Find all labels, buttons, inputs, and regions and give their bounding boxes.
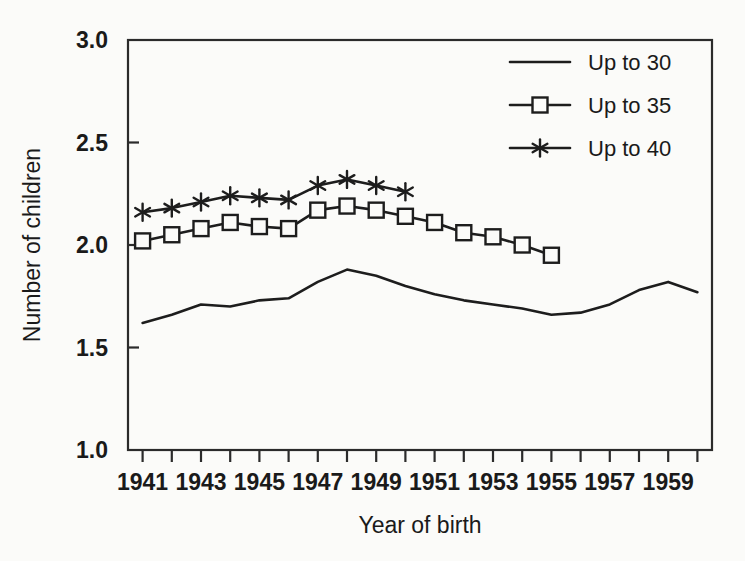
x-tick-label-1951: 1951: [409, 469, 460, 495]
x-tick-label-1957: 1957: [584, 469, 635, 495]
y-tick-label-1.0: 1.0: [76, 437, 108, 463]
data-point-marker: [398, 209, 413, 224]
data-point-marker: [533, 98, 548, 113]
legend-label: Up to 35: [588, 93, 671, 118]
chart-figure: 1.01.52.02.53.0 194119431945194719491951…: [0, 0, 745, 561]
y-axis-title: Number of children: [19, 148, 45, 342]
y-tick-label-3.0: 3.0: [76, 27, 108, 53]
legend-label: Up to 30: [588, 50, 671, 75]
x-tick-label-1947: 1947: [292, 469, 343, 495]
data-point-marker: [427, 215, 442, 230]
data-point-marker: [515, 238, 530, 253]
x-tick-label-1955: 1955: [526, 469, 577, 495]
data-point-marker: [135, 233, 150, 248]
data-point-marker: [486, 229, 501, 244]
line-chart: 1.01.52.02.53.0 194119431945194719491951…: [0, 0, 745, 561]
y-tick-label-2.5: 2.5: [76, 130, 108, 156]
x-tick-label-1943: 1943: [175, 469, 226, 495]
data-point-marker: [310, 203, 325, 218]
legend-label: Up to 40: [588, 136, 671, 161]
data-point-marker: [340, 199, 355, 214]
x-tick-label-1959: 1959: [643, 469, 694, 495]
x-tick-label-1953: 1953: [467, 469, 518, 495]
y-tick-label-1.5: 1.5: [76, 335, 108, 361]
data-point-marker: [194, 221, 209, 236]
y-tick-label-2.0: 2.0: [76, 232, 108, 258]
data-point-marker: [252, 219, 267, 234]
x-tick-label-1949: 1949: [351, 469, 402, 495]
x-tick-label-1945: 1945: [234, 469, 285, 495]
data-point-marker: [281, 221, 296, 236]
x-axis-title: Year of birth: [358, 512, 481, 538]
data-point-marker: [223, 215, 238, 230]
data-point-marker: [369, 203, 384, 218]
data-point-marker: [456, 225, 471, 240]
data-point-marker: [164, 227, 179, 242]
data-point-marker: [544, 248, 559, 263]
x-tick-label-1941: 1941: [117, 469, 168, 495]
